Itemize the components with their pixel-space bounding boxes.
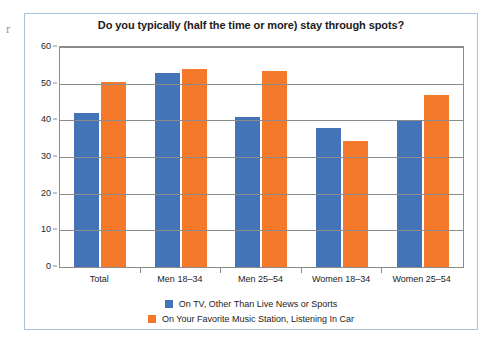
x-axis-labels: TotalMen 18–34Men 25–54Women 18–34Women … (59, 274, 464, 290)
x-axis-tick-label: Women 25–54 (393, 274, 451, 284)
y-axis-tick-mark (53, 192, 57, 193)
y-axis-tick-label: 0 (46, 261, 51, 271)
y-axis-tick-label: 40 (41, 114, 51, 124)
gridline (60, 47, 463, 48)
legend-label: On TV, Other Than Live News or Sports (179, 299, 337, 309)
chart-legend: On TV, Other Than Live News or SportsOn … (25, 299, 477, 329)
y-axis-tick-mark (53, 156, 57, 157)
bar (235, 117, 260, 267)
y-axis-tick-label: 50 (41, 78, 51, 88)
legend-swatch (148, 315, 156, 323)
bar (155, 73, 180, 267)
x-axis-tick-label: Total (90, 274, 109, 284)
gridline (60, 84, 463, 85)
legend-label: On Your Favorite Music Station, Listenin… (162, 314, 354, 324)
y-axis-tick-mark (53, 266, 57, 267)
scan-artifact-glyph: r (6, 22, 10, 35)
x-axis-tick-label: Men 25–54 (238, 274, 283, 284)
x-axis-tick-label: Men 18–34 (157, 274, 202, 284)
gridline (60, 120, 463, 121)
chart-frame: Do you typically (half the time or more)… (24, 13, 478, 330)
y-axis-tick-mark (53, 82, 57, 83)
bar (262, 71, 287, 267)
gridline (60, 157, 463, 158)
x-axis-tick-mark (301, 268, 302, 273)
legend-item: On Your Favorite Music Station, Listenin… (25, 314, 477, 324)
x-axis-tick-mark (140, 268, 141, 273)
y-axis-tick-mark (53, 119, 57, 120)
gridline (60, 230, 463, 231)
bar (101, 82, 126, 267)
y-axis-tick-label: 30 (41, 151, 51, 161)
legend-swatch (165, 300, 173, 308)
y-axis-tick-label: 60 (41, 41, 51, 51)
y-axis: 0102030405060 (25, 46, 57, 268)
chart-page: r Do you typically (half the time or mor… (0, 0, 488, 346)
bar (343, 141, 368, 268)
y-axis-tick-label: 20 (41, 188, 51, 198)
chart-title: Do you typically (half the time or more)… (25, 19, 477, 31)
y-axis-tick-label: 10 (41, 224, 51, 234)
y-axis-tick-mark (53, 46, 57, 47)
bar (182, 69, 207, 267)
legend-item: On TV, Other Than Live News or Sports (25, 299, 477, 309)
x-axis-tick-label: Women 18–34 (312, 274, 370, 284)
x-axis-tick-mark (220, 268, 221, 273)
bar (74, 113, 99, 267)
y-axis-tick-mark (53, 229, 57, 230)
x-axis-tick-mark (381, 268, 382, 273)
gridline (60, 194, 463, 195)
bar (316, 128, 341, 267)
plot-area (59, 46, 464, 268)
